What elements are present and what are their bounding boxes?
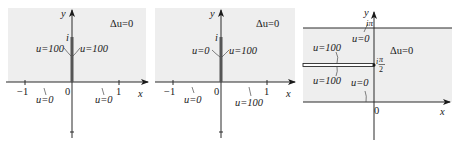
slit	[303, 64, 374, 67]
tick-label-1: 1	[264, 86, 269, 97]
equation-label: Δu=0	[256, 18, 279, 29]
panel-2: y x Δu=0 i u=0 u=100 0 −1 1 u=0 u=100	[155, 8, 295, 138]
axis-left-label: u=0	[184, 94, 202, 105]
x-axis-label: x	[285, 88, 291, 99]
slit	[71, 37, 74, 82]
equation-label: Δu=0	[110, 18, 133, 29]
y-axis-label: y	[60, 8, 66, 19]
slit-right-label: u=100	[229, 45, 258, 56]
tick-label-1: 1	[116, 86, 121, 97]
slit	[220, 37, 223, 82]
x-axis-label: x	[439, 106, 445, 117]
slit-upper-label: u=100	[313, 42, 342, 53]
tick-label-minus-1: −1	[164, 86, 175, 97]
slit-lower-label: u=100	[313, 75, 342, 86]
bottom-line-label: u=0	[351, 77, 369, 88]
panel-1: y x Δu=0 i u=100 u=100 0 −1 1 u=0 u=0	[6, 8, 148, 138]
equation-label: Δu=0	[390, 45, 413, 56]
leader-axis-left	[192, 87, 194, 93]
tick-label-minus-1: −1	[17, 86, 28, 97]
slit-left-label: u=100	[36, 43, 65, 54]
slit-top-label: i	[66, 32, 69, 43]
origin-label: 0	[214, 86, 219, 97]
slit-right-label: u=100	[80, 43, 109, 54]
axis-right-label: u=0	[95, 94, 113, 105]
y-axis-label: y	[209, 8, 215, 19]
diagram-canvas: y x Δu=0 i u=100 u=100 0 −1 1 u=0 u=0 y …	[0, 0, 452, 147]
top-line-label: u=0	[352, 33, 370, 44]
axis-right-label: u=100	[235, 97, 264, 108]
slit-left-label: u=0	[192, 45, 210, 56]
top-label: iπ	[366, 18, 374, 28]
mid-label-prefix: i	[376, 57, 378, 66]
x-axis-label: x	[137, 88, 143, 99]
slit-top-label: i	[215, 32, 218, 43]
panel-3: y iπ Δu=0 u=0 u=100 u=100 u=0 0 x i π 2	[303, 7, 452, 140]
origin-label: 0	[65, 86, 70, 97]
mid-label-denominator: 2	[379, 65, 383, 74]
axis-left-label: u=0	[36, 94, 54, 105]
origin-label: 0	[374, 105, 379, 116]
leader-axis-right	[249, 87, 251, 96]
y-axis-label: y	[363, 7, 369, 18]
